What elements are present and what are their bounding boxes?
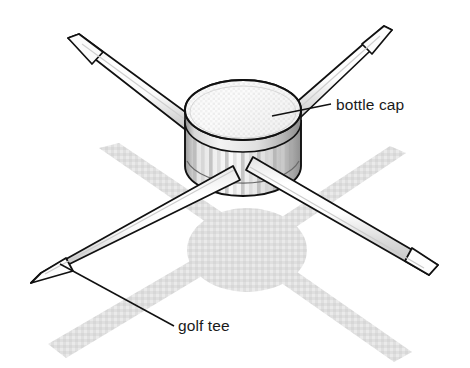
- shadow-cap-disc: [187, 208, 307, 292]
- label-bottle-cap: bottle cap: [336, 96, 404, 113]
- label-golf-tee: golf tee: [178, 317, 230, 334]
- illustration-svg: bottle cap golf tee: [0, 0, 470, 368]
- illustration-canvas: bottle cap golf tee: [0, 0, 470, 368]
